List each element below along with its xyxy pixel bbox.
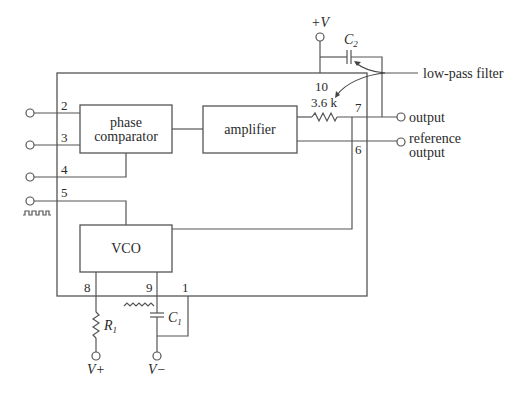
low-pass-filter-label: low-pass filter [423,66,504,81]
v-minus-label: V− [148,362,166,377]
resistor-3-6k-label: 3.6 k [311,95,338,110]
plus-v-label: +V [311,15,330,30]
output-label: output [409,110,445,125]
pin-5-label: 5 [61,185,68,200]
terminal-output [397,113,405,121]
r1-label: R1 [103,318,117,335]
terminal-v-minus [153,352,161,360]
amplifier-label: amplifier [224,122,276,137]
pll-diagram: phase comparator amplifier VCO 2 3 4 5 3… [0,0,523,395]
pin-10-label: 10 [315,79,328,94]
pin-7-label: 7 [355,100,362,115]
arrow-to-c2 [356,63,385,73]
pin-9-label: 9 [146,280,153,295]
reference-output-label-1: reference [409,131,461,146]
c1-label: C1 [168,310,182,327]
triangle-wave-icon [124,303,154,306]
phase-comparator-label-1: phase [110,115,142,130]
terminal-pin3 [26,141,34,149]
v-plus-label: V+ [87,362,105,377]
terminal-plus-v [316,33,324,41]
vco-label: VCO [111,241,141,256]
phase-comparator-label-2: comparator [94,129,158,144]
pin-1-label: 1 [182,280,189,295]
terminal-pin5 [26,197,34,205]
terminal-pin4 [26,173,34,181]
pin-6-label: 6 [355,142,362,157]
pin-8-label: 8 [84,280,91,295]
terminal-reference-output [397,138,405,146]
pin-3-label: 3 [61,130,68,145]
diagram-svg: phase comparator amplifier VCO 2 3 4 5 3… [0,0,523,395]
square-wave-icon [23,211,51,215]
c2-label: C2 [344,32,358,49]
pin-2-label: 2 [61,98,68,113]
pin-4-label: 4 [61,162,68,177]
terminal-v-plus [92,352,100,360]
resistor-r1 [93,312,99,338]
terminal-pin2 [26,109,34,117]
reference-output-label-2: output [409,145,445,160]
